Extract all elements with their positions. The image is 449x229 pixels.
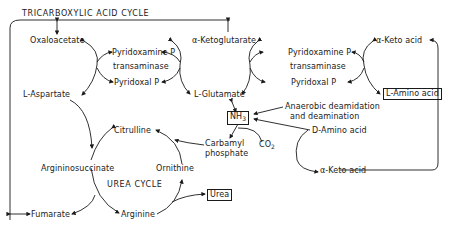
- l-amino-acid-box: L-Amino acid: [383, 88, 442, 100]
- argininosuccinate-label: Argininosuccinate: [41, 164, 114, 173]
- left-pyridoxamine-p-label: Pyridoxamine P: [112, 48, 175, 57]
- urea-cycle-title: UREA CYCLE: [107, 180, 162, 189]
- fumarate-label: Fumarate: [31, 210, 70, 219]
- ornithine-label: Ornithine: [156, 164, 194, 173]
- tca-cycle-title: TRICARBOXYLIC ACID CYCLE: [22, 9, 149, 18]
- l-aspartate-label: L-Aspartate: [23, 90, 70, 99]
- left-pyridoxal-p-label: Pyridoxal P: [114, 78, 159, 87]
- alpha-ketoglutarate-label: α-Ketoglutarate: [192, 36, 256, 45]
- right-pyridoxamine-p-label: Pyridoxamine P: [288, 48, 351, 57]
- oxaloacetate-label: Oxaloacetate: [30, 36, 85, 45]
- nh3-box: NH3: [227, 111, 249, 125]
- and-deamination-label: and deamination: [290, 112, 359, 121]
- l-glutamate-label: L-Glutamate: [194, 90, 245, 99]
- carbamyl-label: Carbamyl: [205, 139, 244, 148]
- anaerobic-deamidation-label: Anaerobic deamidation: [285, 102, 380, 111]
- left-transaminase-label: transaminase: [113, 62, 169, 71]
- urea-box: Urea: [207, 189, 232, 201]
- d-amino-acid-label: D-Amino acid: [312, 126, 367, 135]
- amino-acid-metabolism-diagram: TRICARBOXYLIC ACID CYCLE Oxaloacetate Py…: [0, 0, 449, 229]
- citrulline-label: Citrulline: [114, 126, 151, 135]
- alpha-keto-acid-bottom-label: α-Keto acid: [320, 166, 366, 175]
- right-transaminase-label: transaminase: [290, 62, 346, 71]
- alpha-keto-acid-top-label: α-Keto acid: [376, 36, 422, 45]
- co2-label: CO2: [259, 140, 275, 151]
- arginine-label: Arginine: [121, 210, 155, 219]
- phosphate-label: phosphate: [205, 149, 248, 158]
- right-pyridoxal-p-label: Pyridoxal P: [291, 78, 336, 87]
